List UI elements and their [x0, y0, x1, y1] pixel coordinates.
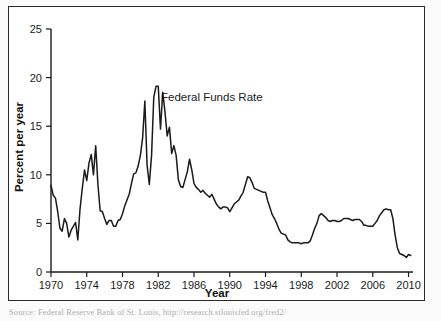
series-annotation-label: Federal Funds Rate — [161, 91, 263, 103]
figure-frame: 0510152025 19701974197819821986199019941… — [8, 6, 425, 301]
x-axis-tick-label: 2002 — [325, 279, 349, 291]
source-caption: Source: Federal Reserve Bank of St. Loui… — [9, 307, 429, 317]
figure-root: 0510152025 19701974197819821986199019941… — [0, 0, 441, 321]
x-axis-ticks — [51, 272, 409, 277]
y-axis-tick-label: 5 — [36, 217, 42, 229]
federal-funds-rate-line — [51, 86, 411, 257]
y-axis-tick-label: 20 — [30, 72, 42, 84]
y-axis-tick-label: 0 — [36, 266, 42, 278]
x-axis-tick-label: 1998 — [289, 279, 313, 291]
x-axis-tick-label: 2006 — [361, 279, 385, 291]
y-axis-tick-label: 15 — [30, 120, 42, 132]
x-axis-tick-label: 2010 — [396, 279, 420, 291]
y-axis-tick-label: 25 — [30, 23, 42, 35]
x-axis-title: Year — [205, 287, 230, 299]
chart-plot-area: 0510152025 19701974197819821986199019941… — [9, 7, 426, 302]
y-axis-tick-labels: 0510152025 — [30, 23, 42, 278]
x-axis-tick-label: 1994 — [253, 279, 277, 291]
x-axis-tick-label: 1982 — [146, 279, 170, 291]
x-axis-tick-labels: 1970197419781982198619901994199820022006… — [39, 279, 421, 291]
x-axis-tick-label: 1978 — [110, 279, 134, 291]
x-axis-tick-label: 1970 — [39, 279, 63, 291]
x-axis-tick-label: 1974 — [75, 279, 99, 291]
y-axis-ticks — [46, 29, 51, 272]
y-axis-title: Percent per year — [13, 101, 25, 192]
x-axis-tick-label: 1986 — [182, 279, 206, 291]
y-axis-tick-label: 10 — [30, 169, 42, 181]
federal-funds-rate-chart: 0510152025 19701974197819821986199019941… — [9, 7, 426, 302]
